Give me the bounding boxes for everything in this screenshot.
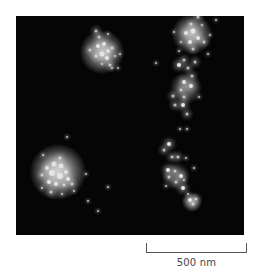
scale-bar (146, 243, 247, 253)
fluorescent-spot (73, 190, 75, 192)
fluorescent-spot (107, 33, 109, 35)
fluorescent-spot (174, 104, 177, 107)
fluorescent-spot (173, 31, 175, 33)
fluorescent-spot (98, 36, 101, 39)
fluorescent-spot (101, 63, 103, 65)
fluorescent-spot (95, 30, 98, 33)
fluorescent-spot (54, 182, 58, 186)
fluorescent-spot (64, 170, 68, 174)
fluorescent-spot (111, 67, 113, 69)
cluster-glow (170, 72, 202, 104)
fluorescent-spot (66, 177, 70, 181)
cluster-glow (30, 144, 86, 200)
fluorescent-spot (177, 156, 180, 159)
fluorescent-spot (106, 49, 110, 53)
fluorescent-spot (215, 19, 217, 21)
fluorescent-spot (181, 103, 185, 107)
fluorescent-spot (192, 203, 195, 206)
fluorescent-spot (180, 89, 183, 92)
fluorescent-spot (117, 67, 119, 69)
fluorescent-spot (47, 180, 51, 184)
fluorescent-spot (49, 170, 55, 176)
fluorescent-spot (59, 157, 62, 160)
fluorescent-spot (41, 187, 43, 189)
scale-bar-label: 500 nm (146, 257, 247, 268)
fluorescent-spot (102, 42, 106, 46)
fluorescent-spot (194, 61, 197, 64)
fluorescent-spot (198, 96, 200, 98)
fluorescent-spot (196, 36, 200, 40)
fluorescent-spot (163, 149, 166, 152)
fluorescent-spot (178, 50, 180, 52)
fluorescent-spot (119, 53, 121, 55)
fluorescent-spot (188, 198, 192, 202)
fluorescent-spot (87, 200, 89, 202)
fluorescent-spot (183, 179, 185, 181)
fluorescent-spot (168, 176, 171, 179)
fluorescent-spot (181, 186, 185, 190)
fluorescent-spot (105, 56, 109, 60)
fluorescent-spot (111, 47, 114, 50)
fluorescent-spot (100, 52, 105, 57)
fluorescent-spot (185, 157, 187, 159)
fluorescent-spot (52, 162, 57, 167)
fluorescent-spot (59, 164, 64, 169)
fluorescent-spot (166, 168, 170, 172)
fluorescent-spot (186, 128, 188, 130)
fluorescent-spot (71, 183, 74, 186)
micrograph-panel (16, 16, 244, 235)
fluorescent-spot (191, 75, 194, 78)
fluorescent-spot (95, 55, 98, 58)
fluorescent-spot (66, 136, 68, 138)
fluorescent-spot (175, 181, 178, 184)
fluorescent-spot (186, 113, 189, 116)
fluorescent-spot (42, 154, 44, 156)
fluorescent-spot (107, 186, 109, 188)
fluorescent-spot (41, 174, 44, 177)
fluorescent-spot (183, 96, 186, 99)
fluorescent-spot (180, 41, 182, 43)
fluorescent-spot (167, 142, 171, 146)
fluorescent-spot (63, 184, 66, 187)
fluorescent-spot (184, 31, 188, 35)
fluorescent-spot (45, 166, 49, 170)
fluorescent-spot (179, 174, 183, 178)
fluorescent-spot (114, 55, 116, 57)
fluorescent-spot (201, 24, 203, 26)
fluorescent-spot (172, 95, 175, 98)
fluorescent-spot (187, 67, 190, 70)
fluorescent-spot (155, 62, 157, 64)
fluorescent-spot (189, 84, 193, 88)
fluorescent-spot (97, 210, 99, 212)
fluorescent-spot (50, 191, 53, 194)
fluorescent-spot (179, 128, 181, 130)
fluorescent-spot (193, 167, 195, 169)
fluorescent-spot (187, 193, 189, 195)
fluorescent-spot (89, 49, 92, 52)
fluorescent-spot (207, 53, 209, 55)
fluorescent-spot (61, 193, 63, 195)
fluorescent-spot (191, 29, 196, 34)
fluorescent-spot (96, 44, 100, 48)
fluorescent-spot (195, 198, 198, 201)
fluorescent-spot (171, 156, 174, 159)
fluorescent-spot (182, 80, 186, 84)
fluorescent-spot (192, 48, 195, 51)
fluorescent-spot (177, 63, 181, 67)
fluorescent-spot (183, 59, 186, 62)
fluorescent-spot (190, 23, 193, 26)
fluorescent-spot (188, 40, 192, 44)
fluorescent-spot (203, 41, 206, 44)
fluorescent-spot (209, 34, 211, 36)
fluorescent-spot (57, 173, 63, 179)
fluorescent-spot (165, 185, 167, 187)
fluorescent-spot (174, 170, 177, 173)
fluorescent-spot (85, 173, 87, 175)
